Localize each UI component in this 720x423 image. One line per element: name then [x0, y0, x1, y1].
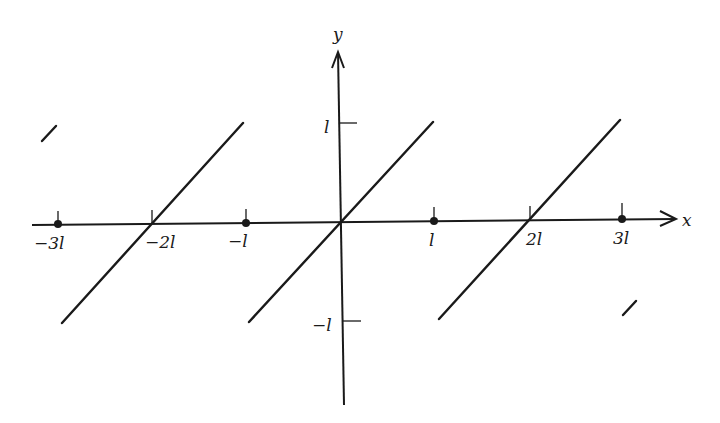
tick-label-minus-l: −l [228, 231, 248, 251]
tick-label-minus-3l: −3l [34, 233, 65, 253]
y-axis-line [338, 52, 344, 405]
tick-label-l: l [429, 230, 434, 250]
tick-label-y-minus-l: −l [312, 315, 332, 335]
tick-label-minus-2l: −2l [145, 232, 176, 252]
tick-label-y-l: l [324, 117, 329, 137]
tick-label-3l: 3l [613, 228, 629, 248]
x-ticks: −3l −2l −l l 2l 3l [34, 203, 629, 253]
x-axis-label: x [682, 210, 692, 230]
y-axis: y [332, 24, 344, 405]
sawtooth-diagram: x y −3l −2l −l l 2l 3l l −l [0, 0, 720, 423]
dot-l [430, 217, 438, 225]
dot-minus-3l [54, 220, 62, 228]
segment-partial-right [623, 301, 636, 315]
tick-label-2l: 2l [525, 229, 542, 249]
dot-3l [618, 215, 626, 223]
x-axis-line [32, 219, 676, 225]
segment-partial-left [42, 126, 56, 141]
y-axis-label: y [332, 24, 343, 44]
dot-minus-l [242, 219, 250, 227]
x-axis: x [32, 210, 692, 230]
